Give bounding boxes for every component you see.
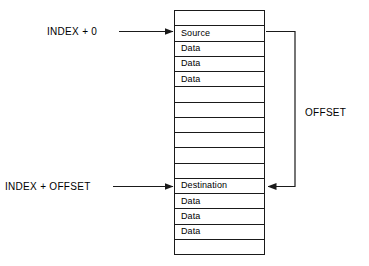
memory-row — [175, 148, 264, 163]
memory-row — [175, 240, 264, 254]
label-index-zero: INDEX + 0 — [47, 27, 97, 37]
memory-row — [175, 87, 264, 102]
memory-row — [175, 11, 264, 26]
memory-row: Data — [175, 194, 264, 209]
memory-row — [175, 118, 264, 133]
memory-row: Data — [175, 57, 264, 72]
memory-row: Data — [175, 72, 264, 87]
label-index-offset: INDEX + OFFSET — [5, 182, 91, 192]
memory-row: Data — [175, 209, 264, 224]
memory-block: Source Data Data Data Destination Data D… — [174, 10, 265, 255]
memory-row — [175, 164, 264, 179]
memory-row — [175, 133, 264, 148]
memory-row-source: Source — [175, 26, 264, 41]
offset-bracket — [266, 32, 295, 187]
memory-row-destination: Destination — [175, 179, 264, 194]
label-offset: OFFSET — [305, 108, 346, 118]
memory-row — [175, 103, 264, 118]
memory-offset-diagram: Source Data Data Data Destination Data D… — [0, 0, 369, 266]
memory-row: Data — [175, 42, 264, 57]
memory-row: Data — [175, 225, 264, 240]
